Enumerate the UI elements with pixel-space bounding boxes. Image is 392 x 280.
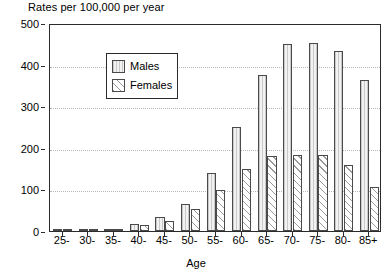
- y-axis-tick: [41, 107, 45, 108]
- bar-males-40-: [130, 224, 139, 231]
- bar-chart: Rates per 100,000 per year 0100200300400…: [0, 0, 392, 280]
- bar-females-35-: [114, 229, 123, 231]
- y-axis-tick-label: 500: [21, 19, 39, 30]
- y-axis-tick: [41, 149, 45, 150]
- y-axis-tick: [41, 190, 45, 191]
- bar-females-85+: [370, 187, 379, 232]
- x-axis-tick-label: 60-: [233, 235, 249, 246]
- x-axis-tick-label: 25-: [54, 235, 70, 246]
- plot-area: Males Females: [49, 24, 381, 232]
- bar-males-70-: [283, 44, 292, 231]
- x-axis-tick-label: 65-: [258, 235, 274, 246]
- bar-males-75-: [309, 43, 318, 231]
- bar-females-40-: [140, 225, 149, 231]
- bar-females-25-: [63, 229, 72, 231]
- y-axis-tick: [41, 24, 45, 25]
- y-axis-tick: [41, 66, 45, 67]
- bar-females-30-: [89, 229, 98, 231]
- x-axis-tick-label: 35-: [105, 235, 121, 246]
- y-axis-tick-label: 100: [21, 185, 39, 196]
- x-axis-tick-label: 85+: [359, 235, 378, 246]
- legend-item-males: Males: [112, 60, 159, 73]
- legend-item-females: Females: [112, 79, 172, 92]
- x-axis-tick-label: 50-: [182, 235, 198, 246]
- x-axis: 25-30-35-40-45-50-55-60-65-70-75-80-85+: [49, 235, 381, 251]
- diagonal-hatch-swatch-icon: [112, 79, 125, 92]
- y-axis-tick: [41, 232, 45, 233]
- bar-females-65-: [267, 156, 276, 231]
- bar-males-35-: [104, 229, 113, 231]
- vertical-lines-swatch-icon: [112, 60, 125, 73]
- bar-males-80-: [334, 51, 343, 231]
- bar-females-80-: [344, 165, 353, 231]
- x-axis-tick-label: 75-: [309, 235, 325, 246]
- y-axis-tick-label: 300: [21, 102, 39, 113]
- bar-females-75-: [318, 155, 327, 231]
- bar-females-55-: [216, 190, 225, 231]
- bar-males-55-: [207, 173, 216, 231]
- bars-layer: [50, 25, 380, 231]
- chart-legend: Males Females: [106, 53, 178, 99]
- x-axis-tick-label: 30-: [79, 235, 95, 246]
- legend-label-males: Males: [130, 61, 159, 72]
- x-axis-tick-label: 40-: [130, 235, 146, 246]
- bar-females-50-: [191, 209, 200, 231]
- x-axis-title: Age: [0, 257, 392, 269]
- y-axis-tick-label: 200: [21, 143, 39, 154]
- x-axis-tick-label: 45-: [156, 235, 172, 246]
- bar-males-65-: [258, 75, 267, 231]
- y-axis-tick-label: 400: [21, 60, 39, 71]
- x-axis-tick-label: 80-: [335, 235, 351, 246]
- bar-males-85+: [360, 80, 369, 231]
- y-axis-tick-label: 0: [33, 227, 39, 238]
- bar-males-50-: [181, 204, 190, 231]
- legend-label-females: Females: [130, 80, 172, 91]
- bar-females-60-: [242, 169, 251, 231]
- y-axis: 0100200300400500: [0, 24, 45, 232]
- bar-males-30-: [79, 229, 88, 231]
- chart-title: Rates per 100,000 per year: [28, 1, 165, 13]
- bar-males-60-: [232, 127, 241, 231]
- bar-males-25-: [53, 229, 62, 231]
- bar-females-70-: [293, 155, 302, 231]
- x-axis-tick-label: 70-: [284, 235, 300, 246]
- x-axis-tick-label: 55-: [207, 235, 223, 246]
- bar-males-45-: [155, 217, 164, 231]
- bar-females-45-: [165, 221, 174, 231]
